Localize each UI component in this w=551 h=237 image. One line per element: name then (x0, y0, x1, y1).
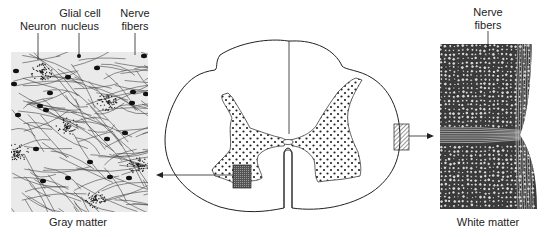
fiber-cross-section (484, 167, 487, 170)
fiber-cross-section (448, 87, 451, 90)
fiber-cross-section (506, 108, 508, 110)
white-matter-caption: White matter (457, 216, 520, 228)
fiber-cross-section (510, 187, 513, 190)
fiber-cross-section (496, 184, 499, 187)
fiber-cross-section (497, 171, 500, 174)
fiber-cross-section (476, 159, 478, 161)
fiber-cross-section (478, 170, 481, 173)
neuron-stipple (67, 126, 68, 127)
fiber-cross-section (492, 187, 494, 189)
fiber-cross-section (507, 70, 509, 72)
fiber-cross-section (493, 197, 495, 199)
fiber-cross-section (488, 192, 491, 195)
fiber-cross-section (470, 150, 473, 153)
fiber-cross-section (456, 174, 460, 178)
fiber-cross-section (497, 100, 500, 103)
fiber-cross-section (515, 48, 517, 50)
fiber-cross-section (489, 91, 492, 94)
fiber-cross-section (462, 154, 465, 157)
fiber-cross-section (457, 187, 460, 190)
neuron-stipple (129, 163, 130, 164)
neuron-stipple (115, 100, 116, 101)
fiber-cross-section (484, 146, 487, 149)
fiber-cross-section (439, 61, 442, 64)
fiber-cross-section (462, 70, 464, 72)
neuron-stipple (100, 105, 101, 106)
neuron-stipple (104, 197, 105, 198)
fiber-cross-section (480, 205, 482, 207)
fiber-cross-section (492, 154, 495, 157)
fiber-cross-section (470, 70, 473, 73)
fiber-cross-section (447, 157, 451, 161)
fiber-cross-section (475, 65, 478, 68)
fiber-cross-section (449, 174, 452, 177)
glial-nucleus (40, 179, 46, 183)
neuron-stipple (69, 127, 70, 128)
fiber-cross-section (439, 107, 442, 110)
label-glial-line1: Glial cell (59, 7, 101, 19)
fiber-cross-section (492, 48, 495, 51)
neuron-stipple (130, 160, 131, 161)
fiber-cross-section (497, 112, 500, 115)
fiber-cross-section (484, 120, 486, 122)
gray-matter-arrowhead (156, 172, 163, 178)
fiber-cross-section (470, 79, 472, 81)
fiber-cross-section (501, 74, 504, 77)
fiber-cross-section (488, 108, 491, 111)
fiber-cross-section (510, 179, 513, 182)
fiber-cross-section (444, 195, 447, 198)
fiber-cross-section (483, 196, 486, 199)
fiber-cross-section (492, 53, 496, 57)
fiber-cross-section (488, 175, 491, 178)
fiber-cross-section (445, 188, 447, 190)
fiber-cross-section (497, 153, 500, 156)
fiber-cross-section (440, 200, 443, 203)
fiber-cross-section (445, 121, 447, 123)
fiber-cross-section (489, 166, 492, 169)
fiber-cross-section (457, 66, 459, 68)
fiber-cross-section (471, 116, 474, 119)
fiber-cross-section (501, 120, 505, 124)
fiber-cross-section (444, 70, 447, 73)
fiber-cross-section (470, 167, 473, 170)
fiber-cross-section (466, 83, 468, 85)
fiber-cross-section (480, 75, 482, 77)
fiber-cross-section (453, 171, 455, 173)
fiber-cross-section (532, 82, 534, 84)
fiber-cross-section (510, 83, 512, 85)
fiber-cross-section (502, 70, 504, 72)
fiber-cross-section (452, 100, 455, 103)
fiber-cross-section (506, 162, 509, 165)
neuron-stipple (105, 199, 106, 200)
fiber-cross-section (449, 153, 452, 156)
fiber-cross-section (453, 103, 455, 105)
fiber-cross-section (533, 95, 535, 97)
glial-nucleus (65, 176, 71, 180)
fiber-cross-section (515, 66, 518, 69)
fiber-cross-section (444, 95, 446, 97)
fiber-cross-section (466, 124, 469, 127)
fiber-cross-section (448, 150, 450, 152)
neuron-stipple (50, 77, 51, 78)
neuron-stipple (98, 198, 99, 199)
neuron-stipple (65, 127, 66, 128)
neuron-stipple (41, 76, 42, 77)
fiber-cross-section (456, 94, 460, 98)
fiber-cross-section (528, 91, 531, 94)
fiber-cross-section (493, 44, 496, 47)
fiber-cross-section (470, 91, 473, 94)
fiber-cross-section (514, 45, 517, 48)
fiber-cross-section (523, 107, 526, 110)
neuron-stipple (95, 195, 96, 196)
fiber-cross-section (470, 176, 472, 178)
fiber-cross-section (462, 49, 465, 52)
neuron-stipple (89, 203, 90, 204)
fiber-cross-section (448, 184, 450, 186)
neuron-stipple (110, 106, 111, 107)
fiber-cross-section (523, 145, 526, 148)
fiber-cross-section (505, 111, 508, 114)
fiber-cross-section (493, 163, 496, 166)
fiber-cross-section (470, 203, 474, 207)
fiber-cross-section (453, 108, 455, 110)
fiber-cross-section (514, 98, 517, 101)
